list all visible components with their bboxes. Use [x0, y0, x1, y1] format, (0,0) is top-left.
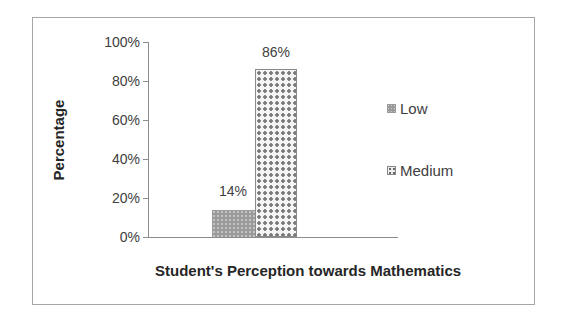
y-tick-label: 60%	[112, 112, 140, 128]
x-axis-line	[148, 237, 398, 238]
legend-swatch-low-icon	[387, 104, 396, 113]
legend-label: Medium	[400, 162, 453, 179]
bar-low	[212, 210, 255, 237]
data-label-low: 14%	[219, 183, 247, 199]
y-tick-0	[143, 237, 148, 238]
legend-item-medium: Medium	[387, 162, 453, 179]
y-tick-20	[143, 198, 148, 199]
legend-item-low: Low	[387, 100, 428, 117]
y-axis-title: Percentage	[50, 100, 67, 181]
x-axis-title: Student's Perception towards Mathematics	[155, 262, 461, 279]
y-tick-label: 100%	[104, 34, 140, 50]
legend-label: Low	[400, 100, 428, 117]
y-tick-label: 80%	[112, 73, 140, 89]
y-tick-label: 0%	[120, 229, 140, 245]
legend-swatch-medium-icon	[387, 166, 396, 175]
y-tick-100	[143, 42, 148, 43]
y-tick-80	[143, 81, 148, 82]
y-tick-label: 40%	[112, 151, 140, 167]
bar-medium	[255, 69, 297, 237]
y-tick-60	[143, 120, 148, 121]
data-label-medium: 86%	[262, 44, 290, 60]
y-tick-40	[143, 159, 148, 160]
y-axis-line	[148, 42, 149, 238]
y-tick-label: 20%	[112, 190, 140, 206]
